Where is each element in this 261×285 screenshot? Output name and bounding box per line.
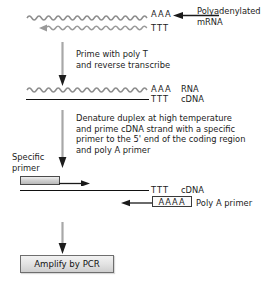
callout-line-2: mRNA: [197, 17, 261, 28]
step-denature-arrow: [58, 110, 67, 168]
primed-cdna-label: cDNA: [181, 185, 204, 196]
cdna-strand-line: [26, 99, 149, 100]
cdna-amplification-diagram: AAA Polyadenylated mRNA TTT Prime with p…: [0, 0, 261, 285]
step-prime-rt-label: Prime with poly T and reverse transcribe: [76, 49, 170, 70]
specific-primer-label: Specific primer: [12, 152, 44, 173]
poly-a-primer-label: Poly A primer: [196, 198, 252, 209]
specific-primer-line-2: primer: [12, 163, 44, 174]
step-denature-line-4: and poly A primer: [76, 145, 245, 156]
rna-strand-sequence: AAA: [151, 84, 172, 94]
step-prime-rt-arrow: [58, 42, 67, 86]
step-to-pcr-arrow: [58, 222, 67, 254]
cdna-strand-sequence: TTT: [151, 94, 169, 104]
specific-primer-block: [20, 176, 60, 185]
step-denature-label: Denature duplex at high temperature and …: [76, 113, 245, 155]
cdna-strand-label: cDNA: [181, 94, 204, 105]
amplify-by-pcr-box[interactable]: Amplify by PCR: [20, 255, 114, 273]
poly-a-primer-box: AAAA: [152, 196, 192, 207]
polyadenylated-mrna-callout-label: Polyadenylated mRNA: [197, 6, 261, 27]
specific-primer-extension-arrow: [59, 177, 91, 186]
poly-t-strand-sequence: TTT: [151, 23, 169, 33]
step-prime-rt-line-1: Prime with poly T: [76, 49, 170, 60]
specific-primer-line-1: Specific: [12, 152, 44, 163]
mrna-top-strand-wave: [26, 13, 149, 22]
primed-cdna-strand-line: [20, 190, 149, 191]
step-denature-line-1: Denature duplex at high temperature: [76, 113, 245, 124]
step-prime-rt-line-2: and reverse transcribe: [76, 60, 170, 71]
step-denature-line-3: primer to the 5' end of the coding regio…: [76, 134, 245, 145]
poly-t-strand-wave: [39, 23, 149, 33]
callout-line-1: Polyadenylated: [197, 6, 261, 17]
primed-cdna-sequence: TTT: [151, 185, 169, 195]
mrna-top-strand-sequence: AAA: [151, 9, 172, 19]
poly-a-primer-arrow: [121, 198, 155, 208]
step-denature-line-2: and prime cDNA strand with a specific: [76, 124, 245, 135]
rna-strand-label: RNA: [181, 84, 199, 95]
rna-strand-wave: [26, 85, 149, 94]
